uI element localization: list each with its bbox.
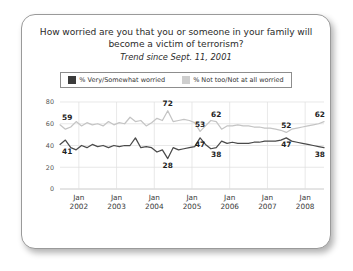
data-label-47-26: 47 bbox=[195, 141, 205, 150]
chart-legend: % Very/Somewhat worried % Not too/Not at… bbox=[60, 72, 291, 88]
data-label-52-42: 52 bbox=[281, 121, 291, 130]
data-label-28-20: 28 bbox=[163, 161, 173, 170]
x-axis-tick-jan-2005: Jan2005 bbox=[183, 193, 202, 211]
line-chart: 020406080 Jan2002Jan2003Jan2004Jan2005Ja… bbox=[22, 96, 331, 219]
svg-text:Jan: Jan bbox=[299, 193, 311, 202]
y-axis-tick-40: 40 bbox=[46, 142, 54, 150]
y-axis-tick-labels: 020406080 bbox=[46, 99, 54, 194]
svg-text:2003: 2003 bbox=[107, 202, 126, 211]
chart-area: 020406080 Jan2002Jan2003Jan2004Jan2005Ja… bbox=[22, 96, 330, 219]
x-axis-tick-jan-2007: Jan2007 bbox=[258, 193, 277, 211]
data-label-59-0: 59 bbox=[62, 114, 72, 123]
x-axis-tick-labels: Jan2002Jan2003Jan2004Jan2005Jan2006Jan20… bbox=[70, 193, 315, 211]
legend-label-very-somewhat-worried: % Very/Somewhat worried bbox=[79, 76, 165, 84]
y-axis-tick-20: 20 bbox=[46, 164, 54, 172]
data-label-38-49: 38 bbox=[315, 151, 325, 160]
data-label-62-49: 62 bbox=[315, 110, 325, 119]
legend-item-very-somewhat-worried[interactable]: % Very/Somewhat worried bbox=[68, 76, 165, 84]
legend-label-not-too-not-at-all-worried: % Not too/Not at all worried bbox=[193, 76, 284, 84]
y-axis-tick-60: 60 bbox=[46, 120, 54, 128]
svg-text:Jan: Jan bbox=[110, 193, 122, 202]
data-label-38-29: 38 bbox=[211, 151, 221, 160]
data-label-72-20: 72 bbox=[163, 100, 173, 109]
survey-chart-card: How worried are you that you or someone … bbox=[21, 14, 331, 249]
data-label-53-26: 53 bbox=[195, 120, 205, 129]
legend-item-not-too-not-at-all-worried[interactable]: % Not too/Not at all worried bbox=[182, 76, 284, 84]
page-subtitle: Trend since Sept. 11, 2001 bbox=[35, 51, 317, 64]
x-axis-tick-jan-2002: Jan2002 bbox=[70, 193, 89, 211]
data-label-62-29: 62 bbox=[211, 110, 221, 119]
svg-text:2002: 2002 bbox=[70, 202, 89, 211]
x-axis-tick-jan-2006: Jan2006 bbox=[220, 193, 239, 211]
svg-text:2004: 2004 bbox=[145, 202, 164, 211]
svg-text:Jan: Jan bbox=[148, 193, 160, 202]
y-axis-tick-80: 80 bbox=[46, 99, 54, 107]
data-point-labels: 597253625262412847384738 bbox=[62, 100, 325, 171]
svg-text:2006: 2006 bbox=[220, 202, 239, 211]
y-axis-tick-0: 0 bbox=[50, 186, 54, 194]
x-axis-tick-jan-2003: Jan2003 bbox=[107, 193, 126, 211]
svg-text:2005: 2005 bbox=[183, 202, 202, 211]
svg-text:Jan: Jan bbox=[261, 193, 273, 202]
svg-text:Jan: Jan bbox=[185, 193, 197, 202]
legend-wrapper: % Very/Somewhat worried % Not too/Not at… bbox=[22, 72, 330, 88]
x-axis-tick-jan-2008: Jan2008 bbox=[296, 193, 315, 211]
svg-text:2008: 2008 bbox=[296, 202, 315, 211]
svg-text:2007: 2007 bbox=[258, 202, 277, 211]
legend-swatch-icon-light bbox=[182, 76, 190, 84]
title-block: How worried are you that you or someone … bbox=[22, 15, 330, 63]
data-label-47-42: 47 bbox=[281, 141, 291, 150]
legend-swatch-icon-dark bbox=[68, 76, 76, 84]
svg-text:Jan: Jan bbox=[223, 193, 235, 202]
svg-text:Jan: Jan bbox=[72, 193, 84, 202]
data-label-41-0: 41 bbox=[62, 147, 72, 156]
page-title-line-2: become a victim of terrorism? bbox=[35, 38, 317, 50]
x-axis-tick-jan-2004: Jan2004 bbox=[145, 193, 164, 211]
page-title-line-1: How worried are you that you or someone … bbox=[35, 26, 317, 38]
